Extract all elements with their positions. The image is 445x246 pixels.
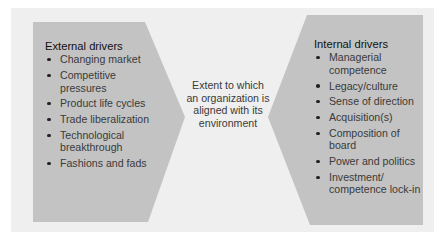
list-item: Acquisition(s) <box>314 111 426 123</box>
list-item: Investment/ competence lock-in <box>314 171 426 196</box>
list-item: Changing market <box>45 53 160 65</box>
list-item: Product life cycles <box>45 97 160 109</box>
internal-drivers-list: Managerial competence Legacy/culture Sen… <box>314 51 426 195</box>
list-item: Sense of direction <box>314 95 426 107</box>
list-item: Managerial competence <box>314 51 426 76</box>
list-item: Fashions and fads <box>45 157 160 169</box>
list-item: Composition of board <box>314 127 426 152</box>
list-item: Power and politics <box>314 155 426 167</box>
list-item: Technological breakthrough <box>45 129 160 154</box>
external-drivers-list: Changing market Competitive pressures Pr… <box>45 53 160 169</box>
internal-drivers-panel: Internal drivers Managerial competence L… <box>314 38 426 199</box>
external-drivers-panel: External drivers Changing market Competi… <box>45 40 160 173</box>
list-item: Competitive pressures <box>45 69 160 94</box>
internal-drivers-title: Internal drivers <box>314 38 426 50</box>
external-drivers-title: External drivers <box>45 40 160 52</box>
list-item: Trade liberalization <box>45 113 160 125</box>
alignment-label: Extent to which an organization is align… <box>186 79 270 129</box>
list-item: Legacy/culture <box>314 80 426 92</box>
